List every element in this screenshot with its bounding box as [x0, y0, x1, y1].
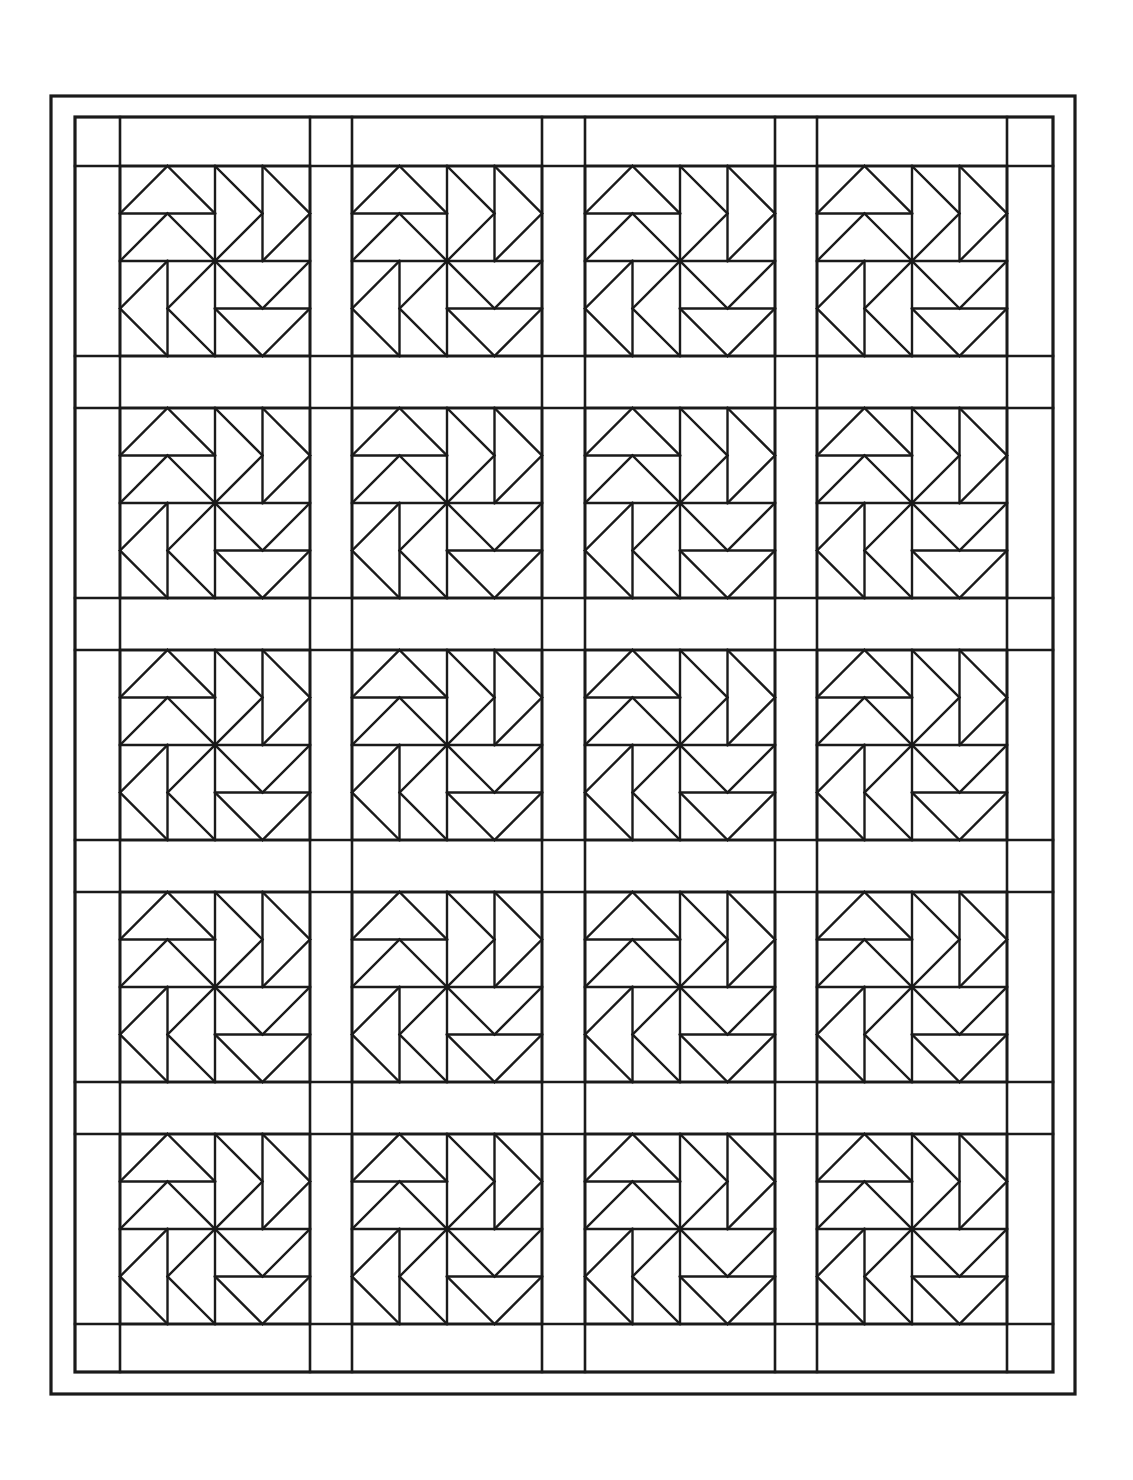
- page-canvas: [0, 0, 1133, 1480]
- quilt-diagram: [0, 0, 1133, 1480]
